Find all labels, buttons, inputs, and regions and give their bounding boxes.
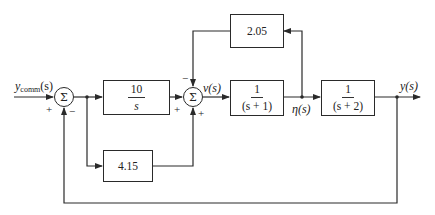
plant1-block: 1(s + 1) (230, 80, 284, 116)
branch-point-eta (300, 95, 304, 99)
plant1-numerator: 1 (251, 83, 263, 98)
branch-point-1 (85, 95, 89, 99)
plant2-block: 1(s + 2) (321, 80, 375, 116)
v-signal-label: v(s) (203, 82, 221, 94)
feedback-gain-value: 2.05 (247, 25, 267, 37)
input-signal-label: ycomm(s) (15, 80, 53, 94)
proportional-gain-value: 4.15 (118, 160, 138, 172)
integrator-block: 10s (103, 80, 170, 115)
sum1-minus-sign: − (69, 106, 75, 117)
sum2-plus-bottom-sign: + (198, 108, 204, 119)
integrator-denominator: s (134, 98, 138, 113)
integrator-numerator: 10 (128, 83, 146, 98)
output-signal-label: y(s) (400, 80, 418, 92)
sum1-plus-sign: + (46, 104, 52, 115)
plant1-denominator: (s + 1) (242, 98, 272, 113)
sum2-plus-left-sign: + (174, 104, 180, 115)
summing-junction-2: Σ (183, 87, 203, 107)
summing-junction-1: Σ (54, 87, 74, 107)
plant2-denominator: (s + 2) (333, 98, 363, 113)
eta-signal-label: η(s) (292, 103, 311, 115)
proportional-gain-block: 4.15 (103, 150, 153, 182)
feedback-gain-block: 2.05 (230, 14, 284, 48)
branch-point-output (395, 95, 399, 99)
sum2-minus-sign: − (182, 73, 188, 84)
plant2-numerator: 1 (342, 83, 354, 98)
